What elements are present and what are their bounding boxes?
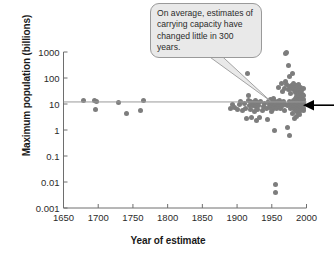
plot-axes (64, 52, 307, 208)
carrying-capacity-callout: On average, estimates of carrying capaci… (150, 3, 262, 58)
carrying-capacity-scatter-figure: Maximum population (billions) Year of es… (0, 0, 336, 261)
present-population-arrow (303, 100, 334, 110)
